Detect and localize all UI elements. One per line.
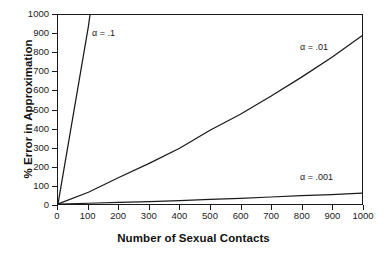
- series-line-2: [58, 193, 362, 204]
- x-axis-title: Number of Sexual Contacts: [0, 232, 387, 244]
- y-tick-mark: [52, 71, 57, 72]
- y-tick-mark: [52, 33, 57, 34]
- x-tick-label: 200: [110, 211, 126, 221]
- y-tick-label: 800: [33, 47, 49, 57]
- series-label-alpha-0-1: α = .1: [92, 28, 115, 38]
- x-tick-label: 700: [263, 211, 279, 221]
- y-tick-mark: [52, 110, 57, 111]
- y-tick-mark: [52, 14, 57, 15]
- y-tick-mark: [52, 52, 57, 53]
- y-tick-mark: [52, 167, 57, 168]
- x-tick-label: 500: [202, 211, 218, 221]
- series-label-alpha-0-01: α = .01: [300, 42, 328, 52]
- x-tick-label: 400: [171, 211, 187, 221]
- series-label-alpha-0-001: α = .001: [300, 172, 333, 182]
- y-tick-mark: [52, 90, 57, 91]
- x-tick-label: 900: [324, 211, 340, 221]
- x-tick-label: 0: [54, 211, 59, 221]
- chart-figure: α = .1 α = .01 α = .001 0100200300400500…: [0, 0, 387, 256]
- y-tick-label: 300: [33, 143, 49, 153]
- y-tick-mark: [52, 148, 57, 149]
- y-tick-label: 500: [33, 105, 49, 115]
- x-tick-label: 1000: [352, 211, 373, 221]
- x-tick-label: 800: [294, 211, 310, 221]
- y-tick-label: 200: [33, 162, 49, 172]
- y-tick-mark: [52, 129, 57, 130]
- x-tick-label: 600: [233, 211, 249, 221]
- x-tick-label: 100: [80, 211, 96, 221]
- x-tick-label: 300: [141, 211, 157, 221]
- y-tick-label: 600: [33, 85, 49, 95]
- y-tick-label: 100: [33, 181, 49, 191]
- y-tick-mark: [52, 186, 57, 187]
- y-tick-label: 0: [44, 200, 49, 210]
- y-tick-label: 400: [33, 124, 49, 134]
- y-tick-label: 900: [33, 28, 49, 38]
- y-tick-label: 700: [33, 66, 49, 76]
- y-axis-title: % Error in Approximation: [22, 9, 34, 209]
